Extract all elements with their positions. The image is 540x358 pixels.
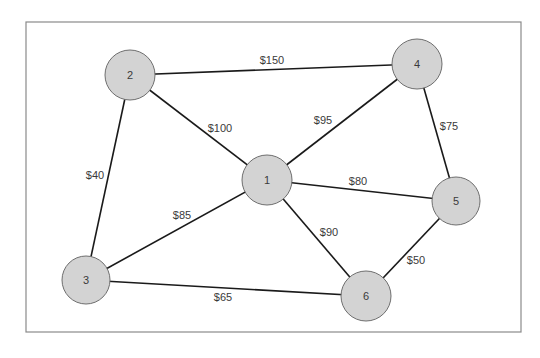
- edge-cost-label: $80: [349, 175, 367, 187]
- node-label: 6: [363, 290, 369, 302]
- node-5: 5: [432, 177, 480, 225]
- network-diagram: $150$100$40$95$75$80$85$90$50$65 123456: [0, 0, 540, 358]
- edge-cost-label: $75: [440, 120, 458, 132]
- node-1: 1: [242, 155, 292, 205]
- node-label: 3: [83, 274, 89, 286]
- node-label: 4: [414, 58, 420, 70]
- edge-cost-label: $100: [208, 122, 232, 134]
- edge-cost-label: $65: [214, 291, 232, 303]
- node-label: 1: [264, 174, 270, 186]
- node-6: 6: [341, 271, 391, 321]
- node-2: 2: [105, 50, 155, 100]
- node-3: 3: [62, 256, 110, 304]
- edge-cost-label: $95: [314, 114, 332, 126]
- node-label: 2: [127, 69, 133, 81]
- edge-cost-label: $90: [320, 226, 338, 238]
- node-4: 4: [392, 39, 442, 89]
- node-label: 5: [453, 195, 459, 207]
- edge-cost-label: $40: [86, 169, 104, 181]
- edge-cost-label: $50: [407, 254, 425, 266]
- edge-cost-label: $150: [260, 54, 284, 66]
- edge-cost-label: $85: [173, 209, 191, 221]
